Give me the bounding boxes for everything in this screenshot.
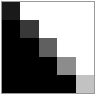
heatmap-cell (39, 57, 57, 75)
plot-frame (1, 1, 95, 94)
heatmap-cell (2, 20, 20, 38)
heatmap-cell (2, 2, 20, 20)
heatmap-cell (76, 20, 94, 38)
heatmap-cell (39, 38, 57, 56)
heatmap-figure (0, 0, 96, 95)
heatmap-cell (20, 75, 38, 93)
heatmap-cell (57, 2, 75, 20)
heatmap-cell (76, 38, 94, 56)
heatmap-cell (2, 75, 20, 93)
heatmap-cell (76, 2, 94, 20)
heatmap-cell (2, 57, 20, 75)
heatmap-cell (20, 2, 38, 20)
heatmap-cell (76, 57, 94, 75)
heatmap-cell (39, 2, 57, 20)
heatmap-cell (57, 75, 75, 93)
heatmap-cell (57, 57, 75, 75)
heatmap-cell (2, 38, 20, 56)
heatmap-grid (2, 2, 94, 93)
heatmap-cell (39, 20, 57, 38)
heatmap-cell (20, 57, 38, 75)
heatmap-cell (57, 20, 75, 38)
heatmap-cell (20, 20, 38, 38)
heatmap-cell (76, 75, 94, 93)
heatmap-cell (39, 75, 57, 93)
heatmap-cell (20, 38, 38, 56)
heatmap-cell (57, 38, 75, 56)
